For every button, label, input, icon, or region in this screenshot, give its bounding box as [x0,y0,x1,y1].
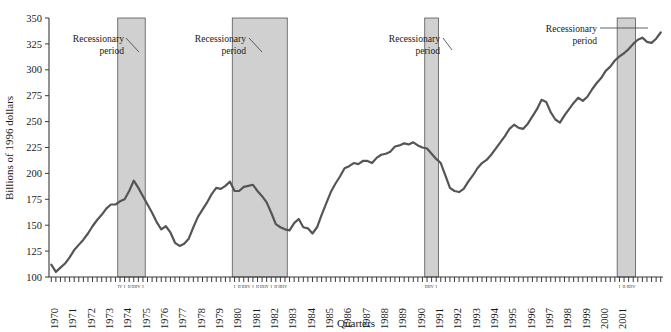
annotation-4-line2: period [572,35,597,46]
quarter-mark-label: IV [264,284,269,289]
x-axis-year-label: 1980 [232,308,243,329]
x-axis-year-label: 1977 [177,308,188,329]
y-axis-title: Billions of 1996 dollars [3,96,15,200]
x-axis-year-label: 1970 [49,308,60,329]
y-axis-tick-labels: 100125150175200225250275300325350 [26,13,42,283]
annotation-3-leader-line [443,38,452,50]
quarter-mark-label: I [234,284,236,289]
y-axis-tick-label: 100 [26,272,42,283]
x-axis-year-label: 1992 [452,308,463,329]
y-axis-tick-label: 225 [26,142,42,153]
x-axis-year-label: 1988 [379,308,390,329]
y-axis-tick-label: 350 [26,13,42,24]
x-axis-year-label: 1993 [471,308,482,329]
x-axis-year-label: 1990 [416,308,427,329]
y-axis-tick-label: 325 [26,39,42,50]
y-axis-tick-label: 300 [26,64,42,75]
x-axis-year-label: 1978 [196,308,207,329]
x-axis-year-label: 1995 [507,308,518,329]
x-axis-year-label: 1994 [489,307,500,329]
x-axis-year-label: 1998 [562,308,573,329]
annotation-2-line2: period [221,45,246,56]
quarter-mark-label: I [270,284,272,289]
quarter-mark-label: IV [136,284,141,289]
x-axis-year-label: 1979 [214,308,225,329]
x-axis-year-label: 1982 [269,308,280,329]
quarter-mark-label: I [252,284,254,289]
quarter-mark-label: I [619,284,621,289]
recession-band-1 [118,18,145,277]
quarter-marker-labels: IVIIIIIIIVIIIIIIIIVIIIIIIIVIIIIIIIVIIIIV… [118,284,636,289]
quarter-mark-label: IV [118,284,123,289]
recession-bands-group [118,18,636,277]
y-axis-tick-label: 175 [26,194,42,205]
x-axis-year-label: 1985 [324,308,335,329]
y-axis-tick-label: 250 [26,116,42,127]
annotation-3-line2: period [415,45,440,56]
chart-figure: 100125150175200225250275300325350 IVIIII… [0,0,671,332]
y-axis-tick-label: 275 [26,90,42,101]
x-axis-year-label: 1999 [581,308,592,329]
quarter-mark-label: I [435,284,437,289]
x-axis-year-label: 1983 [287,308,298,329]
x-axis-title: Quarters [337,317,375,329]
annotation-1-line1: Recessionary [73,33,124,44]
annotation-recession-3: Recessionary period [389,33,452,56]
investment-spending-line-chart: 100125150175200225250275300325350 IVIIII… [0,0,671,332]
annotation-4-line1: Recessionary [546,23,597,34]
annotation-3-line1: Recessionary [389,33,440,44]
annotation-1-line2: period [99,45,124,56]
quarter-mark-label: IV [283,284,288,289]
y-axis-tick-label: 150 [26,220,42,231]
quarter-mark-label: I [142,284,144,289]
x-axis-year-label: 1984 [306,307,317,329]
x-axis-year-label: 2001 [617,308,628,329]
quarter-mark-label: IV [631,284,636,289]
x-axis-year-label: 1973 [104,308,115,329]
y-axis-tick-label: 125 [26,246,42,257]
x-axis-year-label: 1972 [86,308,97,329]
quarter-mark-label: IV [429,284,434,289]
quarter-mark-label: I [124,284,126,289]
quarter-mark-label: IV [246,284,251,289]
y-axis-tick-label: 200 [26,168,42,179]
annotation-2-line1: Recessionary [195,33,246,44]
x-axis-year-label: 1991 [434,308,445,329]
x-axis-year-label: 1971 [67,308,78,329]
x-axis-year-label: 1974 [122,307,133,329]
x-axis-year-label: 2000 [599,308,610,329]
x-axis-year-label: 1996 [526,308,537,329]
x-axis-year-label: 1997 [544,308,555,329]
x-axis-year-label: 1976 [159,308,170,329]
recession-band-2 [232,18,287,277]
x-axis-year-label: 1975 [141,308,152,329]
x-axis-year-label: 1981 [251,308,262,329]
x-axis-year-label: 1989 [397,308,408,329]
